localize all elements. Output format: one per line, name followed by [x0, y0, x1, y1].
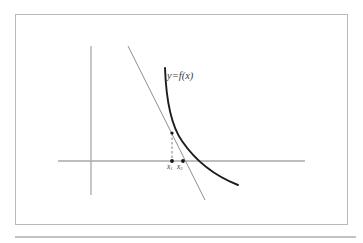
- tangent-point-marker: [170, 131, 173, 134]
- bottom-divider-rule: [15, 236, 356, 238]
- curve-label: y=f(x): [167, 71, 193, 82]
- x1-label-subscript: 1: [170, 166, 172, 171]
- x2-axis-label: x2: [177, 163, 183, 171]
- x1-axis-label: x1: [167, 163, 173, 171]
- function-curve: [165, 68, 238, 185]
- plot-canvas: [0, 0, 363, 243]
- x2-label-subscript: 2: [180, 166, 182, 171]
